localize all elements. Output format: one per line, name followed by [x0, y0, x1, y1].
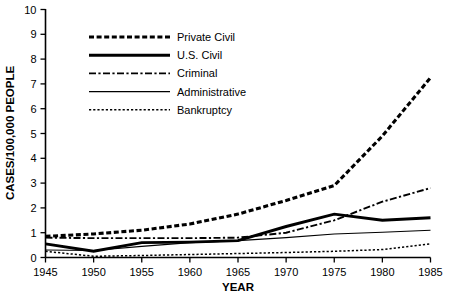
y-tick-label: 5 [30, 128, 36, 140]
x-axis-tick-labels: 194519501955196019651970197519801985 [33, 266, 442, 278]
x-tick-label: 1985 [418, 266, 442, 278]
y-axis-title: CASES/100,000 PEOPLE [4, 66, 16, 201]
y-tick-label: 1 [30, 227, 36, 239]
legend-label-bankruptcy: Bankruptcy [177, 104, 233, 116]
y-tick-label: 4 [30, 152, 36, 164]
line-chart: 012345678910 194519501955196019651970197… [0, 0, 458, 302]
legend-label-private-civil: Private Civil [177, 31, 235, 43]
x-tick-label: 1955 [130, 266, 154, 278]
x-tick-label: 1965 [226, 266, 250, 278]
chart-figure: 012345678910 194519501955196019651970197… [0, 0, 458, 302]
y-tick-label: 0 [30, 252, 36, 264]
x-tick-label: 1975 [322, 266, 346, 278]
y-tick-label: 6 [30, 103, 36, 115]
legend-label-administrative: Administrative [177, 86, 246, 98]
x-tick-label: 1950 [81, 266, 105, 278]
y-tick-label: 8 [30, 53, 36, 65]
y-tick-label: 9 [30, 28, 36, 40]
legend-label-u-s-civil: U.S. Civil [177, 49, 222, 61]
y-tick-label: 7 [30, 78, 36, 90]
y-tick-label: 3 [30, 177, 36, 189]
y-tick-label: 10 [24, 4, 36, 16]
x-tick-label: 1960 [178, 266, 202, 278]
x-tick-label: 1970 [274, 266, 298, 278]
x-axis-title: YEAR [222, 281, 255, 293]
x-tick-label: 1945 [33, 266, 57, 278]
x-tick-label: 1980 [370, 266, 394, 278]
y-tick-label: 2 [30, 202, 36, 214]
legend-label-criminal: Criminal [177, 67, 217, 79]
